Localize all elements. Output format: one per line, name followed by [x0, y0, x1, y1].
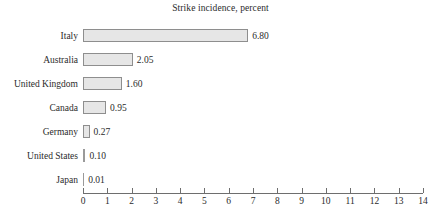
bar-value-label: 1.60 [126, 76, 143, 92]
x-axis-tick [374, 188, 375, 193]
bar [83, 101, 106, 114]
x-axis-tick [326, 188, 327, 193]
bar-value-label: 2.05 [137, 52, 154, 68]
x-axis-tick [423, 188, 424, 193]
x-axis-tick [132, 188, 133, 193]
bar [83, 77, 122, 90]
bar-row: Australia2.05 [0, 52, 441, 68]
x-axis-tick-label: 14 [411, 196, 435, 206]
x-axis-tick-label: 3 [144, 196, 168, 206]
category-label: United Kingdom [0, 76, 78, 92]
x-axis-tick [253, 188, 254, 193]
x-axis-tick [302, 188, 303, 193]
bar [83, 53, 133, 66]
category-label: Australia [0, 52, 78, 68]
bar-row: Germany0.27 [0, 124, 441, 140]
x-axis-tick [399, 188, 400, 193]
bar-value-label: 0.27 [94, 124, 111, 140]
x-axis-tick-label: 8 [265, 196, 289, 206]
x-axis-tick [350, 188, 351, 193]
x-axis-tick [229, 188, 230, 193]
bar-row: United Kingdom1.60 [0, 76, 441, 92]
x-axis-tick-label: 9 [290, 196, 314, 206]
x-axis-tick-label: 1 [95, 196, 119, 206]
category-label: Italy [0, 28, 78, 44]
bar [83, 173, 84, 186]
bar-value-label: 0.10 [89, 148, 106, 164]
x-axis-tick-label: 4 [168, 196, 192, 206]
x-axis-line [83, 193, 423, 194]
category-label: Japan [0, 172, 78, 188]
plot-area: Italy6.80Australia2.05United Kingdom1.60… [0, 0, 441, 220]
x-axis-tick-label: 11 [338, 196, 362, 206]
x-axis-tick-label: 12 [362, 196, 386, 206]
category-label: United States [0, 148, 78, 164]
x-axis-tick [107, 188, 108, 193]
x-axis-tick-label: 10 [314, 196, 338, 206]
category-label: Germany [0, 124, 78, 140]
bar-value-label: 0.01 [88, 172, 105, 188]
x-axis-tick-label: 2 [120, 196, 144, 206]
x-axis-tick-label: 5 [192, 196, 216, 206]
bar [83, 149, 85, 162]
category-label: Canada [0, 100, 78, 116]
bar-chart: Strike incidence, percent Italy6.80Austr… [0, 0, 441, 220]
x-axis-tick-label: 0 [71, 196, 95, 206]
x-axis-tick [204, 188, 205, 193]
bar-row: Italy6.80 [0, 28, 441, 44]
x-axis-tick-label: 7 [241, 196, 265, 206]
bar-row: United States0.10 [0, 148, 441, 164]
bar-row: Japan0.01 [0, 172, 441, 188]
x-axis-tick [83, 188, 84, 193]
x-axis-tick-label: 13 [387, 196, 411, 206]
x-axis-tick [277, 188, 278, 193]
bar-value-label: 0.95 [110, 100, 127, 116]
bar-value-label: 6.80 [252, 28, 269, 44]
bar-row: Canada0.95 [0, 100, 441, 116]
x-axis-tick [180, 188, 181, 193]
bar [83, 125, 90, 138]
x-axis-tick [156, 188, 157, 193]
x-axis-tick-label: 6 [217, 196, 241, 206]
bar [83, 29, 248, 42]
